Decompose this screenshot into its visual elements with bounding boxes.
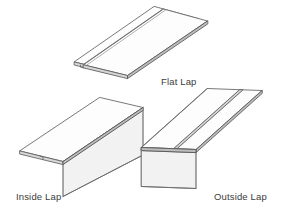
inside-lap-caption: Inside Lap	[16, 191, 61, 202]
figure-outside-lap: Outside Lap	[142, 89, 267, 203]
lap-types-diagram: Flat Lap Inside Lap	[0, 0, 282, 216]
outside-lap-top-face	[142, 89, 263, 150]
outside-lap-vertical-leg	[142, 151, 197, 189]
diagram-canvas: Flat Lap Inside Lap	[0, 0, 282, 216]
figure-inside-lap: Inside Lap	[16, 98, 143, 203]
figure-flat-lap: Flat Lap	[75, 7, 208, 88]
flat-lap-caption: Flat Lap	[161, 76, 197, 87]
outside-lap-caption: Outside Lap	[214, 191, 267, 202]
